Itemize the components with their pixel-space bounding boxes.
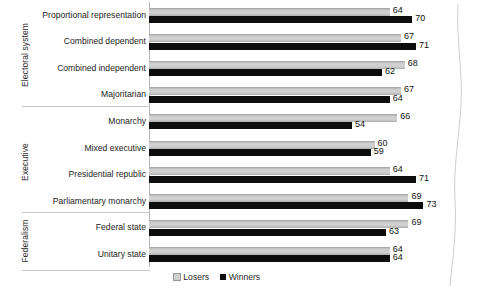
- bar-losers: [149, 87, 401, 95]
- category-label: Combined dependent: [30, 36, 146, 46]
- group-separator: [22, 212, 150, 213]
- bar-value-label: 73: [426, 201, 436, 208]
- bar-value-label: 64: [393, 7, 403, 14]
- group-separator-end: [22, 270, 150, 271]
- bar-losers: [149, 247, 390, 255]
- category-label: Mixed executive: [30, 143, 146, 153]
- category-label: Presidential republic: [30, 169, 146, 179]
- category-label: Majoritarian: [30, 89, 146, 99]
- bar-losers: [149, 141, 375, 149]
- bar-losers: [149, 8, 390, 16]
- bar-value-label: 70: [415, 15, 425, 22]
- bar-winners: [149, 43, 416, 50]
- legend-item-winners: Winners: [220, 272, 260, 282]
- bar-value-label: 64: [393, 254, 403, 261]
- bar-value-label: 64: [393, 95, 403, 102]
- bar-value-label: 59: [374, 148, 384, 155]
- bar-value-label: 69: [411, 193, 421, 200]
- bar-value-label: 67: [404, 33, 414, 40]
- plot-area: 6470677168626764665460596471697369636464: [149, 0, 477, 270]
- category-label: Federal state: [30, 222, 146, 232]
- legend-label-winners: Winners: [229, 272, 261, 282]
- bar-winners: [149, 255, 390, 262]
- bar-winners: [149, 122, 352, 129]
- legend-swatch-losers: [173, 273, 181, 281]
- legend-swatch-winners: [220, 274, 226, 280]
- bar-value-label: 66: [400, 113, 410, 120]
- legend-label-losers: Losers: [183, 272, 209, 282]
- category-label: Monarchy: [30, 116, 146, 126]
- category-label: Parliamentary monarchy: [30, 196, 146, 206]
- chart-legend: Losers Winners: [0, 272, 433, 282]
- grouped-bar-chart: Electoral systemExecutiveFederalism Prop…: [0, 0, 477, 288]
- bar-losers: [149, 34, 401, 42]
- bar-winners: [149, 202, 423, 209]
- bar-value-label: 69: [411, 219, 421, 226]
- bar-value-label: 67: [404, 86, 414, 93]
- category-label: Proportional representation: [30, 10, 146, 20]
- bar-winners: [149, 16, 412, 23]
- legend-item-losers: Losers: [173, 272, 209, 282]
- bar-winners: [149, 69, 382, 76]
- bar-value-label: 54: [355, 121, 365, 128]
- bar-losers: [149, 167, 390, 175]
- bar-losers: [149, 194, 408, 202]
- bar-losers: [149, 220, 408, 228]
- bar-losers: [149, 61, 405, 69]
- bar-winners: [149, 149, 371, 156]
- bar-winners: [149, 176, 416, 183]
- group-label-text: Electoral system: [20, 23, 30, 87]
- group-separator: [22, 106, 150, 107]
- bar-winners: [149, 229, 386, 236]
- bar-value-label: 68: [408, 60, 418, 67]
- category-label: Combined independent: [30, 63, 146, 73]
- group-label-text: Federalism: [20, 220, 30, 263]
- bar-value-label: 62: [385, 68, 395, 75]
- category-label: Unitary state: [30, 249, 146, 259]
- bar-value-label: 64: [393, 166, 403, 173]
- bar-value-label: 71: [419, 175, 429, 182]
- bar-value-label: 63: [389, 228, 399, 235]
- bar-winners: [149, 96, 390, 103]
- bar-value-label: 71: [419, 42, 429, 49]
- group-label-text: Executive: [20, 143, 30, 181]
